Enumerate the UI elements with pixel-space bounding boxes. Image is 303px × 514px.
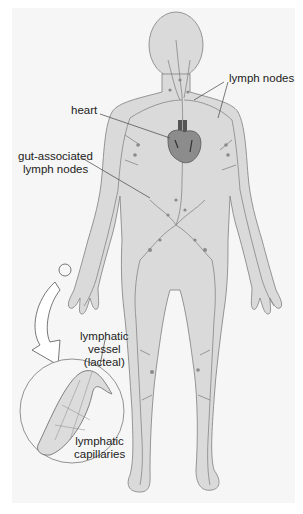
label-lymphatic-vessel: lymphatic vessel (lacteal) xyxy=(80,330,129,369)
label-capillaries-line1: lymphatic xyxy=(74,435,125,448)
diagram-root: lymph nodes heart gut-associated lymph n… xyxy=(0,0,303,514)
label-vessel-line1: lymphatic xyxy=(80,330,129,343)
wrist-magnify-circle xyxy=(59,264,71,276)
label-heart: heart xyxy=(71,104,97,117)
label-capillaries-line2: capillaries xyxy=(74,448,125,461)
label-gut-associated-lymph-nodes: gut-associated lymph nodes xyxy=(18,150,93,176)
label-gut-line2: lymph nodes xyxy=(18,163,93,176)
curved-arrow xyxy=(32,282,60,365)
label-gut-line1: gut-associated xyxy=(18,150,93,163)
label-lymph-nodes: lymph nodes xyxy=(229,72,294,85)
label-lymphatic-capillaries: lymphatic capillaries xyxy=(74,435,125,461)
label-vessel-line3: (lacteal) xyxy=(80,356,129,369)
label-vessel-line2: vessel xyxy=(80,343,129,356)
